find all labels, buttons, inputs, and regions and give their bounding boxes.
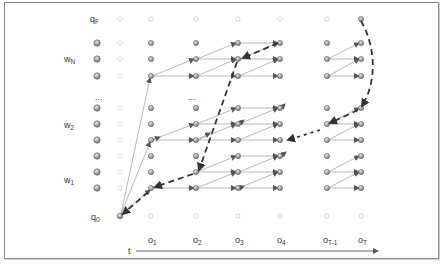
- label-ellipsis-mid: ...: [188, 92, 196, 102]
- time-axis: t o1 o2 o3 o4 oT-1 oT: [128, 235, 378, 256]
- label-qF: qF: [90, 14, 99, 25]
- tick-oT: oT: [358, 235, 367, 246]
- tick-oT-1: oT-1: [323, 235, 338, 246]
- tick-o2: o2: [193, 235, 202, 246]
- label-q0: q0: [91, 212, 100, 223]
- backtrace-path: [123, 21, 373, 214]
- state-nodes: [94, 16, 364, 218]
- tick-o1: o1: [148, 235, 157, 246]
- label-ellipsis-left: ...: [95, 92, 103, 102]
- label-wN: wN: [63, 54, 76, 65]
- label-w2: w2: [63, 120, 75, 131]
- tick-o3: o3: [235, 235, 244, 246]
- label-w1: w1: [63, 175, 75, 186]
- tick-o4: o4: [277, 235, 286, 246]
- row-labels: qF wN ... ... w2 w1 q0: [63, 14, 196, 223]
- axis-label-t: t: [128, 246, 131, 256]
- trellis-diagram: qF wN ... ... w2 w1 q0: [0, 0, 445, 266]
